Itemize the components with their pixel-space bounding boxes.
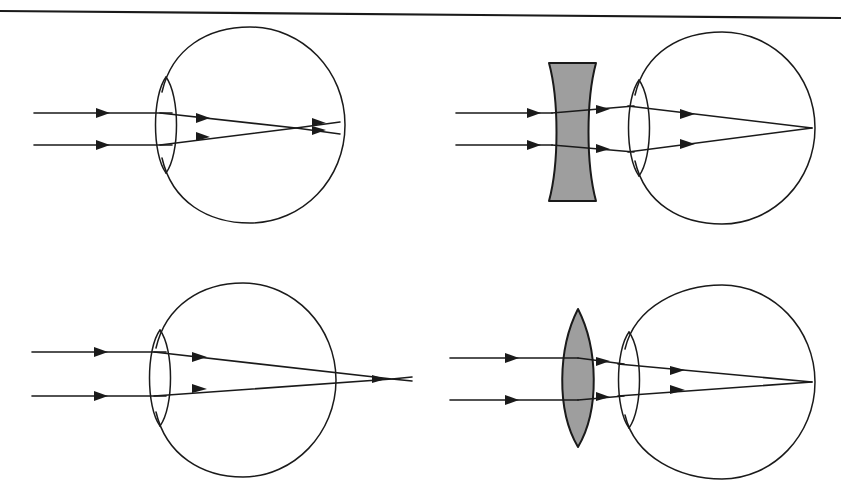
arrow-incoming-upper-icon [94,347,108,357]
arrow-refracted-upper-icon [670,366,685,375]
arrow-refracted-upper-icon [680,109,695,119]
arrow-incoming-lower-icon [94,391,108,401]
cornea [160,330,171,426]
panel-top-left [34,27,345,223]
refracted-ray-lower [628,128,812,152]
panel-bottom-left [32,283,412,477]
cornea [166,77,177,173]
refracted-ray-lower [618,382,812,396]
eye-globe [625,285,815,479]
eye-globe [635,32,815,224]
arrow-incoming-lower-icon [527,140,541,150]
arrow-incoming-lower-icon [505,395,519,405]
arrow-diverged-lower-icon [596,144,610,153]
arrow-refracted-upper-icon [196,113,210,123]
page-top-border [0,11,841,18]
arrow-diverged-upper-icon [596,105,610,114]
refracted-ray-upper [618,364,812,382]
arrow-converged-upper-icon [596,357,610,366]
arrow-refracted-upper-icon [192,352,207,362]
cornea [629,332,640,428]
arrow-converged-lower-icon [596,392,610,401]
cornea-back [150,330,161,426]
arrow-incoming-upper-icon [505,353,519,363]
arrow-incoming-upper-icon [96,108,110,118]
eye-refraction-figure [0,0,841,502]
eye-globe [156,283,336,477]
arrow-incoming-lower-icon [96,140,110,150]
arrow-retina-upper-icon [312,126,326,135]
panel-top-right [456,32,815,224]
cornea-back [629,80,640,176]
refracted-ray-upper [628,106,812,128]
convex-lens [562,309,594,447]
figure-canvas [0,0,841,502]
cornea [639,80,650,176]
cornea-back [156,77,167,173]
concave-lens [549,63,596,201]
panel-bottom-right [450,285,815,479]
arrow-incoming-upper-icon [527,108,541,118]
arrow-refracted-lower-icon [670,385,685,394]
arrow-refracted-lower-icon [680,139,695,149]
cornea-back [619,332,630,428]
